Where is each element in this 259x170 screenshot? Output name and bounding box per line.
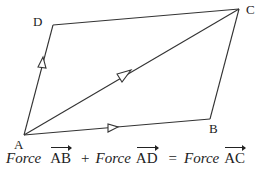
- vector-ac: AC: [224, 144, 245, 167]
- arrowhead-ac-icon: [117, 70, 131, 82]
- vertex-label-c: C: [246, 3, 255, 16]
- arrowhead-ad-icon: [38, 57, 46, 68]
- force-word-1: Force: [6, 150, 41, 167]
- vector-sum-equation: Force AB + Force AD = Force AC: [6, 144, 245, 167]
- edge-cd: [53, 9, 239, 25]
- plus-sign: +: [81, 150, 89, 167]
- vertex-label-b: B: [209, 122, 218, 135]
- vector-ad: AD: [136, 144, 158, 167]
- vertex-label-d: D: [33, 15, 42, 28]
- force-word-3: Force: [184, 150, 219, 167]
- edge-bc: [210, 9, 239, 119]
- edge-da: [24, 25, 53, 135]
- force-word-2: Force: [96, 150, 131, 167]
- arrowhead-ab-icon: [108, 124, 118, 132]
- vector-ab: AB: [50, 144, 71, 167]
- parallelogram-diagram: A B C D Force AB + Force AD = Force AC: [0, 0, 259, 170]
- equals-sign: =: [169, 150, 177, 167]
- diagonal-ac: [24, 9, 239, 135]
